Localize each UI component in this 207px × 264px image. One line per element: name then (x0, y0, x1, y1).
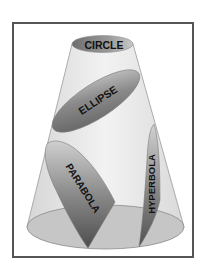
circle-section: CIRCLE (72, 36, 133, 53)
hyperbola-label: HYPERBOLA (146, 154, 157, 214)
conic-sections-diagram: CIRCLE ELLIPSE PARABOLA HYPERBOLA (0, 0, 207, 264)
circle-label: CIRCLE (84, 39, 123, 51)
